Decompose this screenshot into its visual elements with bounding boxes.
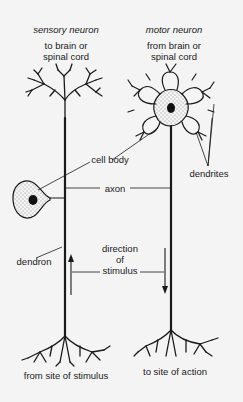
dendron-label: dendron — [14, 256, 54, 267]
sensory-top-branches — [26, 64, 102, 118]
dendrites-pointer-1 — [196, 132, 208, 166]
motor-bottom-label: to site of action — [134, 366, 216, 377]
axon-label: axon — [100, 183, 130, 194]
sensory-nucleus — [29, 195, 38, 205]
direction-line3: stimulus — [96, 265, 144, 276]
sensory-top-line2: spinal cord — [22, 51, 110, 62]
neuron-diagram: sensory neuron to brain or spinal cord m… — [0, 0, 243, 402]
motor-top-label: from brain or spinal cord — [130, 40, 218, 62]
direction-line1: direction — [96, 243, 144, 254]
sensory-top-line1: to brain or — [22, 40, 110, 51]
sensory-bottom-label: from site of stimulus — [12, 370, 120, 381]
direction-line2: of — [96, 254, 144, 265]
sensory-neuron-title: sensory neuron — [22, 24, 110, 35]
motor-nucleus — [167, 103, 175, 113]
motor-neuron-title: motor neuron — [130, 24, 218, 35]
direction-of-stimulus-label: direction of stimulus — [96, 243, 144, 276]
dendrites-label: dendrites — [184, 168, 234, 179]
cell-body-label: cell body — [84, 154, 136, 165]
motor-neuron — [128, 64, 218, 356]
dendrites-pointer-3 — [208, 104, 214, 166]
motor-bottom-branches — [134, 330, 218, 356]
sensory-bottom-branches — [22, 336, 110, 366]
sensory-top-label: to brain or spinal cord — [22, 40, 110, 62]
sensory-neuron — [13, 64, 110, 366]
motor-top-line2: spinal cord — [130, 51, 218, 62]
motor-top-line1: from brain or — [130, 40, 218, 51]
